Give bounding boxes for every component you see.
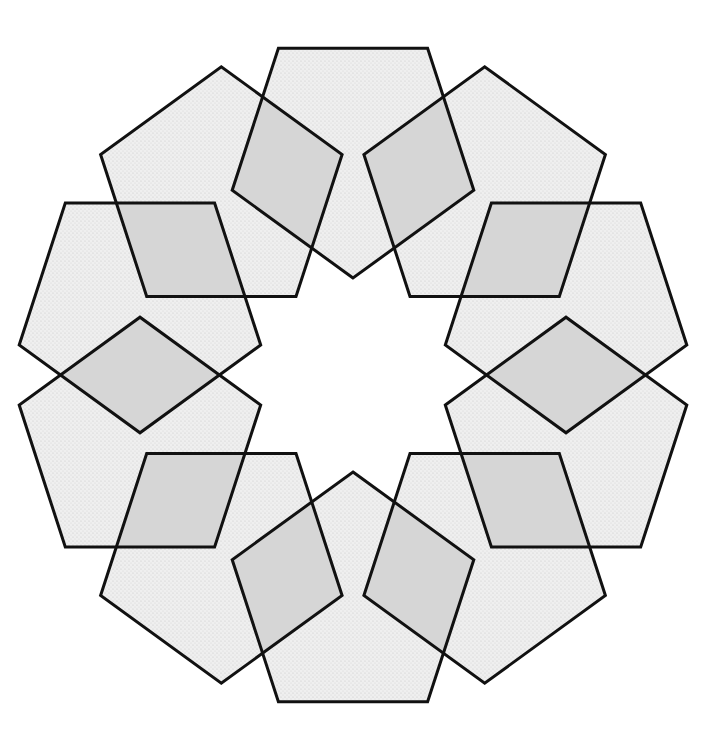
diagram-stage <box>0 0 715 748</box>
pentagon-ring-diagram <box>0 0 715 748</box>
